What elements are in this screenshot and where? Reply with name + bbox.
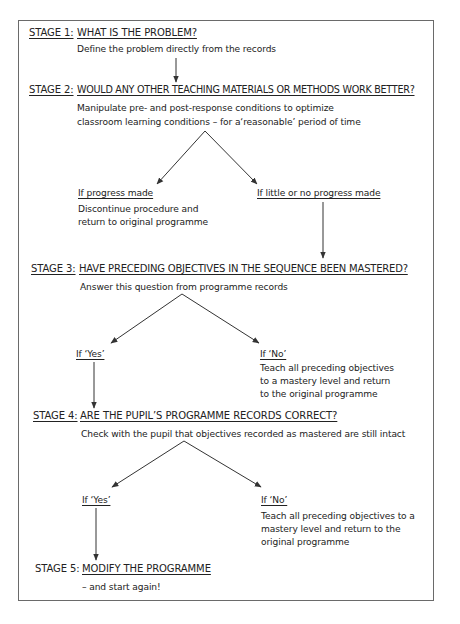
flow-arrows: [0, 0, 460, 624]
arrow-stage4-no: [184, 441, 261, 487]
arrow-stage4-yes: [112, 441, 184, 487]
arrow-stage2-right: [205, 131, 257, 184]
arrow-stage3-no: [182, 294, 259, 343]
arrow-stage2-left: [157, 131, 205, 184]
arrow-stage3-yes: [111, 294, 182, 343]
